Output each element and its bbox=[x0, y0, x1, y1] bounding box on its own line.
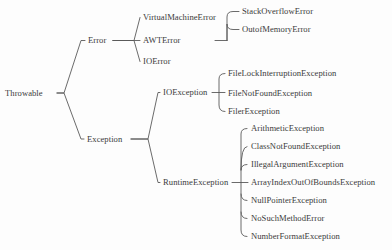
edge-exception-to-runtimeexception bbox=[131, 139, 160, 183]
tree-edges bbox=[0, 0, 392, 250]
node-filerexception: FilerException bbox=[228, 106, 280, 116]
edge-throwable-to-exception bbox=[57, 93, 84, 139]
node-illegalargumentexception: IllegalArgumentException bbox=[251, 159, 344, 169]
node-ioerror: IOError bbox=[143, 56, 171, 66]
node-nosuchmethoderror: NoSuchMethodError bbox=[251, 213, 324, 223]
node-outofmemoryerror: OutofMemoryError bbox=[242, 24, 311, 34]
node-exception: Exception bbox=[87, 134, 122, 144]
node-virtualmachineerror: VirtualMachineError bbox=[143, 12, 216, 22]
node-arrayindexoutofboundsexception: ArrayIndexOutOfBoundsException bbox=[251, 177, 375, 187]
edge-error-to-virtualmachineerror bbox=[113, 18, 140, 41]
node-classnotfoundexception: ClassNotFoundException bbox=[251, 141, 340, 151]
edge-runtimeexception-to-illegalargumentexception bbox=[241, 165, 247, 171]
node-throwable: Throwable bbox=[5, 88, 43, 98]
node-error: Error bbox=[88, 35, 106, 45]
node-awterror: AWTError bbox=[143, 35, 180, 45]
edge-runtimeexception-to-numberformatexception bbox=[241, 183, 247, 237]
edge-ioexception-to-filelockinterruptionexception bbox=[219, 74, 225, 93]
edge-runtimeexception-to-nullpointerexception bbox=[241, 194, 247, 201]
edge-virtualmachineerror-to-outofmemoryerror bbox=[227, 24, 239, 41]
node-arithmeticexception: ArithmeticException bbox=[251, 123, 324, 133]
edge-ioexception-to-filerexception bbox=[219, 93, 225, 112]
node-numberformatexception: NumberFormatException bbox=[251, 231, 340, 241]
edge-error-to-ioerror bbox=[113, 41, 140, 62]
edge-throwable-to-error bbox=[57, 41, 85, 94]
edge-exception-to-ioexception bbox=[131, 93, 160, 140]
node-runtimeexception: RuntimeException bbox=[163, 177, 228, 187]
node-filenotfoundexception: FileNotFoundException bbox=[228, 88, 312, 98]
node-stackoverflowerror: StackOverflowError bbox=[242, 6, 313, 16]
node-filelockinterruptionexception: FileLockInterruptionException bbox=[228, 68, 336, 78]
node-ioexception: IOException bbox=[163, 87, 207, 97]
node-nullpointerexception: NullPointerException bbox=[251, 195, 327, 205]
edge-runtimeexception-to-nosuchmethoderror bbox=[241, 212, 247, 219]
exception-hierarchy-diagram: ThrowableErrorVirtualMachineErrorAWTErro… bbox=[0, 0, 392, 250]
